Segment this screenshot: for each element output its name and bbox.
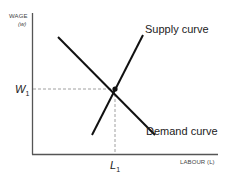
equilibrium-point — [112, 86, 117, 91]
demand-curve — [58, 37, 155, 135]
supply-curve — [92, 35, 143, 135]
supply-curve-label: Supply curve — [145, 24, 209, 35]
w1-label: W1 — [15, 84, 29, 97]
demand-curve-label: Demand curve — [146, 126, 218, 137]
l1-label: L1 — [110, 160, 120, 173]
y-axis-symbol: (w) — [18, 21, 26, 27]
y-axis-title: WAGE — [9, 13, 28, 19]
x-axis-title: LABOUR (L) — [180, 159, 215, 165]
